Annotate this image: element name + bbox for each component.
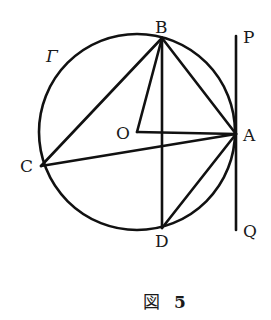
label-b: B [155, 17, 168, 37]
geometry-figure: Γ B P O A C D Q 図 5 [0, 0, 271, 320]
label-d: D [155, 231, 169, 251]
label-a: A [242, 125, 256, 145]
label-q: Q [243, 221, 257, 241]
label-c: C [20, 156, 33, 176]
segment-oa [137, 132, 236, 134]
label-o: O [116, 123, 130, 143]
caption-prefix: 図 [143, 292, 160, 312]
caption-number: 5 [174, 292, 186, 312]
label-gamma: Γ [45, 46, 59, 66]
label-p: P [243, 27, 254, 47]
segment-da [162, 134, 236, 228]
segment-ca [41, 134, 236, 166]
